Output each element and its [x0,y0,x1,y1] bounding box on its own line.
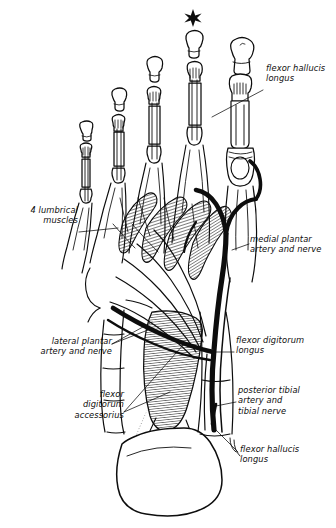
calcaneus-group [117,428,222,516]
label-flexor-digitorum-longus: flexor digitorum longus [236,335,336,356]
label-lateral-plantar-artery-and-nerve: lateral plantar artery and nerve [20,336,112,357]
toe-5-group [62,121,93,273]
label-flexor-hallucis-longus-top: flexor hallucis longus [266,63,336,84]
label-flexor-hallucis-longus-bottom: flexor hallucis longus [240,444,332,465]
lumbrical-muscles-group [113,193,231,279]
label-4-lumbrical-muscles: 4 lumbrical muscles [0,205,78,226]
label-posterior-tibial-artery-and-tibial-nerve: posterior tibial artery and tibial nerve [238,385,336,416]
asterisk-marker [184,9,201,27]
leader-medial-plantar [232,244,249,250]
label-flexor-digitorum-accessorius: flexor digitorum accessorius [18,389,124,420]
label-medial-plantar-artery-and-nerve: medial plantar artery and nerve [250,234,336,255]
anatomical-figure-foot-plantar: 4 lumbrical muscles flexor hallucis long… [0,0,336,528]
